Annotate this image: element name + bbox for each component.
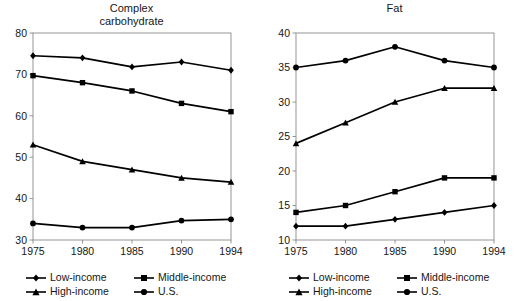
data-point-square xyxy=(129,88,134,93)
data-point-diamond xyxy=(80,54,86,61)
x-axis-tick-label: 1985 xyxy=(383,245,407,257)
y-axis-tick-label: 30 xyxy=(278,96,290,108)
series-u-s xyxy=(30,216,234,230)
plot-svg-left: 30405060708019751980198519901994 xyxy=(0,0,263,301)
legend-label-low-income: Low-income xyxy=(50,272,107,283)
series-low-income xyxy=(30,52,234,73)
data-point-diamond xyxy=(129,64,135,71)
x-axis-tick-label: 1975 xyxy=(21,245,45,257)
data-point-square xyxy=(228,109,233,114)
legend-label-middle-income: Middle-income xyxy=(421,272,489,283)
legend-item-high-income[interactable]: High-income xyxy=(289,286,397,297)
series-low-income xyxy=(293,202,497,230)
data-point-circle xyxy=(442,58,448,64)
diamond-marker-icon xyxy=(289,273,309,283)
chart-panel-complex-carbohydrate: Complex carbohydrate 3040506070801975198… xyxy=(0,0,263,301)
plot-svg-right: 1015202530354019751980198519901994 xyxy=(263,0,526,301)
square-marker-icon xyxy=(134,273,154,283)
data-point-diamond xyxy=(228,67,234,74)
legend-item-us[interactable]: U.S. xyxy=(397,286,511,297)
series-line xyxy=(296,178,494,213)
data-point-diamond xyxy=(293,223,299,230)
data-point-diamond xyxy=(30,52,36,59)
data-point-square xyxy=(293,210,298,215)
x-axis-tick-label: 1980 xyxy=(334,245,358,257)
data-point-diamond xyxy=(392,216,398,223)
y-axis-tick-label: 70 xyxy=(15,68,27,80)
x-axis-tick-label: 1990 xyxy=(433,245,457,257)
y-axis-tick-label: 80 xyxy=(15,27,27,39)
x-axis-tick-label: 1994 xyxy=(482,245,506,257)
y-axis-tick-label: 35 xyxy=(278,61,290,73)
legend-label-middle-income: Middle-income xyxy=(158,272,226,283)
legend-label-low-income: Low-income xyxy=(313,272,370,283)
legend-item-low-income[interactable]: Low-income xyxy=(26,272,134,283)
y-axis-tick-label: 30 xyxy=(15,234,27,246)
legend-item-middle-income[interactable]: Middle-income xyxy=(397,272,511,283)
legend-label-us: U.S. xyxy=(421,286,441,297)
data-point-circle xyxy=(491,65,497,71)
series-line xyxy=(33,145,231,182)
y-axis-tick-label: 50 xyxy=(15,151,27,163)
data-point-circle xyxy=(129,225,135,231)
plot-area-left: 30405060708019751980198519901994 xyxy=(0,0,263,301)
series-high-income xyxy=(30,142,235,185)
data-point-circle xyxy=(293,65,299,71)
x-axis-tick-label: 1994 xyxy=(219,245,243,257)
plot-area-right: 1015202530354019751980198519901994 xyxy=(263,0,526,301)
series-u-s xyxy=(293,44,497,71)
data-point-square xyxy=(80,80,85,85)
x-axis-tick-label: 1990 xyxy=(170,245,194,257)
y-axis-tick-label: 20 xyxy=(278,165,290,177)
square-marker-icon xyxy=(397,273,417,283)
series-line xyxy=(296,47,494,68)
legend-left: Low-income Middle-income High-income U.S… xyxy=(26,272,248,297)
data-point-triangle xyxy=(30,142,37,148)
legend-label-us: U.S. xyxy=(158,286,178,297)
data-point-diamond xyxy=(442,209,448,216)
y-axis-tick-label: 10 xyxy=(278,234,290,246)
series-line xyxy=(296,88,494,143)
y-axis-tick-label: 60 xyxy=(15,110,27,122)
legend-item-high-income[interactable]: High-income xyxy=(26,286,134,297)
data-point-diamond xyxy=(343,223,349,230)
legend-right: Low-income Middle-income High-income U.S… xyxy=(289,272,511,297)
data-point-square xyxy=(491,175,496,180)
legend-label-high-income: High-income xyxy=(313,286,372,297)
data-point-circle xyxy=(228,216,234,222)
data-point-square xyxy=(343,203,348,208)
data-point-circle xyxy=(30,221,36,227)
y-axis-tick-label: 15 xyxy=(278,199,290,211)
circle-marker-icon xyxy=(397,287,417,297)
diamond-marker-icon xyxy=(26,273,46,283)
legend-label-high-income: High-income xyxy=(50,286,109,297)
data-point-circle xyxy=(179,218,185,224)
data-point-diamond xyxy=(179,59,185,66)
x-axis-tick-label: 1980 xyxy=(71,245,95,257)
legend-item-us[interactable]: U.S. xyxy=(134,286,248,297)
dual-line-chart-figure: Complex carbohydrate 3040506070801975198… xyxy=(0,0,526,301)
legend-item-middle-income[interactable]: Middle-income xyxy=(134,272,248,283)
data-point-circle xyxy=(80,225,86,231)
data-point-square xyxy=(179,101,184,106)
data-point-square xyxy=(392,189,397,194)
y-axis-tick-label: 40 xyxy=(278,27,290,39)
chart-panel-fat: Fat 1015202530354019751980198519901994 L… xyxy=(263,0,526,301)
x-axis-tick-label: 1975 xyxy=(284,245,308,257)
series-high-income xyxy=(293,85,498,146)
x-axis-tick-label: 1985 xyxy=(120,245,144,257)
data-point-square xyxy=(442,175,447,180)
legend-item-low-income[interactable]: Low-income xyxy=(289,272,397,283)
triangle-marker-icon xyxy=(289,287,309,297)
y-axis-tick-label: 25 xyxy=(278,130,290,142)
y-axis-tick-label: 40 xyxy=(15,192,27,204)
triangle-marker-icon xyxy=(26,287,46,297)
data-point-circle xyxy=(343,58,349,64)
series-middle-income xyxy=(30,73,233,114)
data-point-square xyxy=(30,73,35,78)
data-point-diamond xyxy=(491,202,497,209)
circle-marker-icon xyxy=(134,287,154,297)
data-point-circle xyxy=(392,44,398,50)
